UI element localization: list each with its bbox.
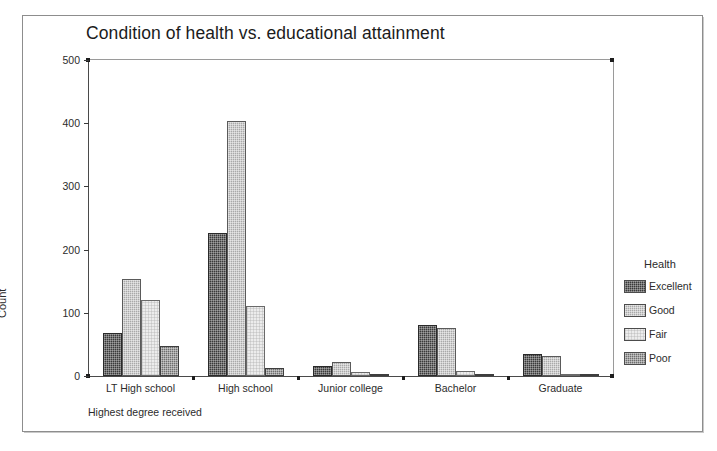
y-tick-label-wrap-0: 0 [36, 376, 80, 377]
y-tick-label-400: 400 [40, 117, 80, 129]
bar-bachelor-excellent [418, 325, 437, 376]
bar-lt-high-school-excellent [103, 333, 122, 376]
legend-item-good[interactable]: Good [624, 303, 710, 317]
x-group-label-lt-high-school: LT High school [106, 382, 175, 394]
plot-right-border [613, 59, 614, 377]
legend-swatch-poor [624, 352, 646, 365]
x-group-label-high-school: High school [218, 382, 273, 394]
x-axis-title: Highest degree received [88, 406, 202, 418]
x-group-label-bachelor: Bachelor [435, 382, 476, 394]
y-tick-label-200: 200 [40, 244, 80, 256]
bar-lt-high-school-poor [160, 346, 179, 376]
y-tick-label-wrap-300: 300 [36, 186, 80, 187]
x-tick-3 [402, 376, 405, 380]
y-tick-label-500: 500 [40, 54, 80, 66]
bar-lt-high-school-fair [141, 300, 160, 376]
legend-label-fair: Fair [649, 328, 667, 340]
bar-junior-college-excellent [313, 366, 332, 376]
bar-high-school-poor [265, 368, 284, 376]
chart-title: Condition of health vs. educational atta… [86, 23, 445, 44]
legend-label-poor: Poor [649, 352, 671, 364]
bar-high-school-good [227, 121, 246, 376]
legend: Health ExcellentGoodFairPoor [624, 258, 710, 375]
y-tick-label-wrap-500: 500 [36, 60, 80, 61]
x-tick-4 [507, 376, 510, 380]
legend-items: ExcellentGoodFairPoor [624, 279, 710, 365]
bar-junior-college-good [332, 362, 351, 376]
plot-area [88, 60, 613, 376]
x-group-label-junior-college: Junior college [318, 382, 383, 394]
legend-label-excellent: Excellent [649, 280, 692, 292]
bar-graduate-excellent [523, 354, 542, 376]
x-axis-line [88, 376, 614, 377]
bar-high-school-excellent [208, 233, 227, 376]
bar-bachelor-good [437, 328, 456, 376]
y-tick-0 [84, 376, 89, 377]
legend-label-good: Good [649, 304, 675, 316]
legend-title: Health [644, 258, 710, 270]
x-group-label-graduate: Graduate [539, 382, 583, 394]
bar-bachelor-poor [475, 374, 494, 376]
bar-graduate-good [542, 356, 561, 376]
y-tick-label-300: 300 [40, 180, 80, 192]
chart-page: Condition of health vs. educational atta… [0, 0, 717, 451]
legend-item-poor[interactable]: Poor [624, 351, 710, 365]
bars-layer [88, 60, 613, 376]
bar-bachelor-fair [456, 371, 475, 376]
bar-lt-high-school-good [122, 279, 141, 376]
legend-item-fair[interactable]: Fair [624, 327, 710, 341]
legend-item-excellent[interactable]: Excellent [624, 279, 710, 293]
y-tick-label-wrap-400: 400 [36, 123, 80, 124]
legend-swatch-good [624, 304, 646, 317]
bar-junior-college-fair [351, 372, 370, 376]
y-tick-label-0: 0 [40, 370, 80, 382]
y-tick-label-wrap-100: 100 [36, 313, 80, 314]
bar-graduate-fair [561, 374, 580, 376]
legend-swatch-excellent [624, 280, 646, 293]
legend-swatch-fair [624, 328, 646, 341]
x-tick-1 [192, 376, 195, 380]
bar-junior-college-poor [370, 374, 389, 376]
bar-high-school-fair [246, 306, 265, 376]
bar-graduate-poor [580, 374, 599, 376]
y-axis-title: Count [0, 289, 8, 318]
y-tick-label-wrap-200: 200 [36, 250, 80, 251]
x-tick-2 [297, 376, 300, 380]
y-tick-label-100: 100 [40, 307, 80, 319]
